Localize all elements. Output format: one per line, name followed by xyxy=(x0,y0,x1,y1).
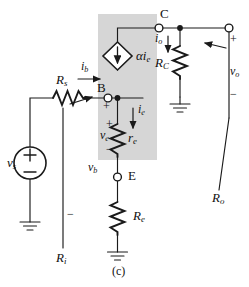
polarity-minus-output: − xyxy=(230,88,237,100)
label-source-resistance: Rs xyxy=(56,72,67,88)
label-output-current: io xyxy=(155,31,162,46)
label-output-voltage: vo xyxy=(230,64,239,79)
label-emitter-current: ie xyxy=(138,102,145,117)
label-voltage-source: vs xyxy=(7,155,16,171)
polarity-plus-output: + xyxy=(230,33,237,45)
resistor-rs-symbol xyxy=(53,91,86,105)
label-input-resistance: Ri xyxy=(56,250,66,266)
circuit-schematic xyxy=(0,0,249,287)
polarity-minus-re: − xyxy=(106,143,113,155)
resistor-Re-symbol xyxy=(111,202,125,235)
terminal-output-right[interactable] xyxy=(225,24,233,32)
label-output-resistance: Ro xyxy=(212,190,224,206)
current-arrow-vo-port xyxy=(205,43,226,48)
label-collector-resistance: RC xyxy=(155,55,169,71)
node-label-collector: C xyxy=(160,6,169,22)
wire-ro-pointer xyxy=(219,118,229,190)
polarity-minus-input-port: − xyxy=(67,208,74,220)
resistor-rc-symbol xyxy=(173,46,187,79)
wire-vs-top xyxy=(30,98,53,147)
label-base-voltage: vb xyxy=(88,160,97,175)
label-emitter-resistance: Re xyxy=(133,208,145,224)
node-label-base: B xyxy=(97,80,106,96)
current-arrow-ri-input xyxy=(70,97,92,104)
junction-dot-base-node xyxy=(115,95,121,101)
figure-caption: (c) xyxy=(112,264,125,279)
circuit-figure: C B E Rs RC re Re αie vs ib ie io ve vb … xyxy=(0,0,249,287)
polarity-plus-base-input: + xyxy=(103,100,110,112)
polarity-plus-re: + xyxy=(106,118,113,130)
junction-dot-collector-rail xyxy=(177,25,183,31)
label-base-current: ib xyxy=(81,59,88,74)
terminal-node-E[interactable] xyxy=(114,173,122,181)
label-emitter-internal-resistance: re xyxy=(128,130,137,146)
label-dependent-current-source: αie xyxy=(136,48,150,64)
node-label-emitter: E xyxy=(128,168,136,184)
